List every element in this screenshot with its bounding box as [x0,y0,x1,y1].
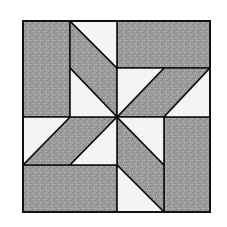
bottom-left-rectangle [23,165,117,212]
quilt-pieces [23,21,210,212]
bottom-right-rectangle [164,117,210,212]
quilt-block-diagram [0,0,227,227]
top-right-rectangle [117,21,210,68]
top-left-rectangle [23,21,70,117]
